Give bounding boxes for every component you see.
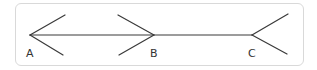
point-a-upper-ray — [30, 15, 65, 35]
ray-diagram: A B C — [0, 0, 317, 70]
point-a-lower-ray — [30, 35, 63, 55]
point-b-upper-ray — [118, 15, 154, 35]
point-c-label: C — [248, 47, 256, 60]
point-b-lower-ray — [119, 35, 154, 55]
point-c-upper-ray — [252, 14, 288, 35]
point-a-label: A — [26, 47, 34, 60]
point-b-label: B — [150, 47, 158, 60]
point-c-lower-ray — [252, 35, 287, 54]
